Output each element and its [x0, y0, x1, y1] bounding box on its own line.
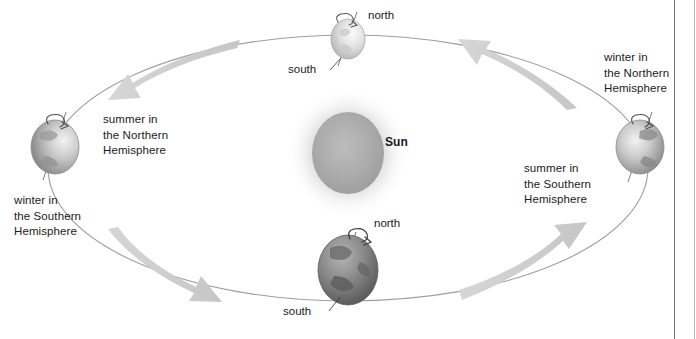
- season-label-winter-southern: winter in the Southern Hemisphere: [14, 193, 81, 240]
- bottom-right-arrow: [459, 222, 587, 300]
- figure-border-right: [674, 0, 675, 339]
- pole-label-bottom-north: north: [374, 216, 400, 230]
- earth-top: [331, 12, 365, 66]
- top-right-arrow: [458, 39, 577, 110]
- season-label-summer-northern: summer in the Northern Hemisphere: [103, 112, 168, 159]
- season-label-winter-northern: winter in the Northern Hemisphere: [604, 50, 669, 97]
- top-left-arrow: [108, 40, 240, 100]
- earth-right: [616, 112, 664, 182]
- diagram-canvas: [0, 0, 696, 339]
- sun-icon: [286, 87, 410, 219]
- pole-label-top-south: south: [288, 62, 316, 76]
- top-south-leader: [330, 58, 341, 70]
- pole-label-bottom-south: south: [283, 304, 311, 318]
- earth-bottom: [318, 229, 378, 305]
- figure-edge-right: [694, 0, 695, 339]
- bottom-left-arrow: [108, 227, 222, 302]
- earth-left: [31, 112, 79, 180]
- seasons-diagram: north south north south Sun summer in th…: [0, 0, 696, 339]
- pole-label-top-north: north: [368, 8, 394, 22]
- season-label-summer-southern: summer in the Southern Hemisphere: [524, 161, 591, 208]
- sun-label: Sun: [385, 135, 408, 151]
